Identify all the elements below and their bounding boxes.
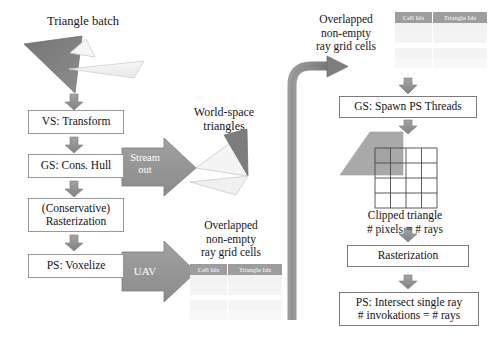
table-overlapped-cells-top[interactable]: Cell Idx Triangle Idx [395, 12, 487, 68]
table-header-row: Cell Idx Triangle Idx [190, 264, 282, 275]
clipped-triangle-shape [340, 132, 403, 175]
label-world-space-triangles: World-space triangles [178, 105, 270, 133]
arrow-rasterization-to-ps [399, 275, 417, 289]
stage-box-ps-voxelize[interactable]: PS: Voxelize [28, 254, 124, 278]
arrow-table-to-gs-spawn [399, 78, 417, 94]
triangle-batch-shapes [24, 36, 144, 93]
stage-box-gs-spawn-ps-threads[interactable]: GS: Spawn PS Threads [339, 96, 477, 118]
table-row [190, 300, 282, 310]
table-column-triangle-idx: Triangle Idx [228, 264, 282, 275]
arrow-vs-to-gs [65, 137, 83, 153]
label-overlapped-cells-bottom: Overlapped non-empty ray grid cells [182, 219, 280, 260]
stage-box-rasterization[interactable]: Rasterization [347, 245, 469, 267]
stage-box-conservative-rasterization[interactable]: (Conservative) Rasterization [28, 198, 124, 232]
table-row [190, 310, 282, 320]
table-row [395, 33, 487, 43]
label-overlapped-cells-top: Overlapped non-empty ray grid cells [300, 13, 392, 54]
page-title-triangle-batch: Triangle batch [18, 14, 148, 29]
world-space-triangle-shapes [190, 129, 248, 195]
table-row [395, 23, 487, 33]
table-row [395, 48, 487, 58]
table-header-row: Cell Idx Triangle Idx [395, 12, 487, 23]
table-row [395, 58, 487, 68]
arrow-gs-to-rast [65, 181, 83, 197]
diagram-canvas: Triangle batch World-space triangles Ove… [0, 0, 489, 340]
stage-box-vs-transform[interactable]: VS: Transform [28, 110, 124, 134]
label-clipped-triangle: Clipped triangle # pixels = # rays [340, 209, 470, 236]
arrow-rast-to-ps [65, 235, 83, 251]
stream-out-label: Stream out [124, 152, 166, 177]
table-column-triangle-idx: Triangle Idx [433, 12, 487, 23]
stage-box-ps-intersect-single-ray[interactable]: PS: Intersect single ray # invokations =… [339, 292, 479, 326]
stage-box-gs-cons-hull[interactable]: GS: Cons. Hull [28, 154, 124, 178]
table-column-cell-idx: Cell Idx [395, 12, 433, 23]
arrow-batch-to-vs [65, 94, 83, 110]
table-column-cell-idx: Cell Idx [190, 264, 228, 275]
ray-grid-overlay [375, 148, 437, 208]
table-overlapped-cells-bottom[interactable]: Cell Idx Triangle Idx [190, 264, 282, 320]
uav-label: UAV [124, 265, 166, 278]
table-row [190, 275, 282, 285]
arrow-gs-spawn-to-clipped [399, 120, 417, 134]
table-row [190, 285, 282, 295]
